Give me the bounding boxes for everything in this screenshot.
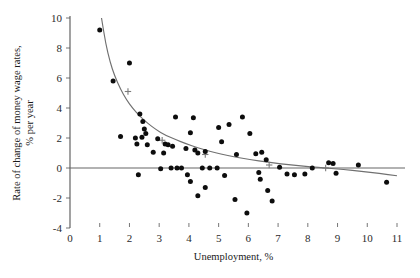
data-point	[302, 172, 307, 177]
data-point	[234, 152, 239, 157]
x-tick-label: 2	[127, 232, 133, 244]
data-point	[166, 142, 171, 147]
x-tick-label: 7	[275, 232, 281, 244]
data-point	[158, 166, 163, 171]
y-tick-label: -2	[53, 192, 62, 204]
data-point	[111, 79, 116, 84]
x-tick-label: 6	[246, 232, 252, 244]
y-tick-label: 4	[57, 102, 63, 114]
data-point	[195, 151, 200, 156]
chart-figure: 01234567891011 -4-20246810 Unemployment,…	[0, 0, 420, 278]
data-point	[191, 115, 196, 120]
data-point	[133, 136, 138, 141]
data-point	[118, 134, 123, 139]
curve-cross-markers	[125, 88, 329, 171]
data-point	[169, 166, 174, 171]
data-point	[285, 172, 290, 177]
data-point	[270, 199, 275, 204]
y-axis-title-line1: Rate of change of money wage rates,	[11, 45, 22, 200]
data-point	[188, 130, 193, 135]
data-point	[140, 119, 145, 124]
data-point	[356, 163, 361, 168]
x-tick-label: 3	[156, 232, 162, 244]
data-point	[216, 125, 221, 130]
data-point	[240, 115, 245, 120]
x-axis-ticks: 01234567891011	[67, 223, 402, 244]
data-point	[215, 166, 220, 171]
data-point	[137, 112, 142, 117]
data-point	[175, 166, 180, 171]
data-point	[155, 136, 160, 141]
data-point	[334, 171, 339, 176]
data-point	[222, 173, 227, 178]
data-point	[97, 28, 102, 33]
data-point	[264, 157, 269, 162]
y-axis-title-line2: % per year	[24, 100, 35, 146]
data-point	[200, 166, 205, 171]
data-point	[151, 150, 156, 155]
data-point	[203, 185, 208, 190]
x-tick-label: 5	[216, 232, 222, 244]
data-point	[258, 177, 263, 182]
data-point	[232, 197, 237, 202]
data-point	[256, 170, 261, 175]
x-tick-label: 1	[97, 232, 103, 244]
x-axis-title: Unemployment, %	[194, 251, 274, 262]
data-point	[188, 179, 193, 184]
x-tick-label: 8	[305, 232, 311, 244]
x-tick-label: 11	[392, 232, 403, 244]
data-point	[134, 142, 139, 147]
data-point	[331, 161, 336, 166]
data-point	[185, 172, 190, 177]
fitted-curve	[102, 18, 397, 176]
data-point	[259, 150, 264, 155]
data-point	[326, 160, 331, 165]
data-points	[97, 28, 389, 216]
x-tick-label: 4	[186, 232, 192, 244]
y-tick-label: 0	[57, 162, 63, 174]
y-tick-label: -4	[53, 222, 63, 234]
y-tick-label: 2	[57, 132, 63, 144]
data-point	[207, 166, 212, 171]
data-point	[127, 61, 132, 66]
data-point	[292, 172, 297, 177]
data-point	[253, 151, 258, 156]
data-point	[203, 149, 208, 154]
data-point	[139, 135, 144, 140]
data-point	[142, 127, 147, 132]
data-point	[227, 122, 232, 127]
data-point	[145, 142, 150, 147]
data-point	[219, 139, 224, 144]
y-axis-ticks: -4-20246810	[51, 12, 70, 234]
data-point	[195, 193, 200, 198]
data-point	[143, 131, 148, 136]
data-point	[179, 166, 184, 171]
x-tick-label: 9	[335, 232, 341, 244]
x-tick-label: 10	[362, 232, 374, 244]
data-point	[183, 146, 188, 151]
y-tick-label: 10	[51, 12, 63, 24]
data-point	[277, 165, 282, 170]
data-point	[247, 131, 252, 136]
data-point	[173, 115, 178, 120]
data-point	[310, 166, 315, 171]
data-point	[244, 211, 249, 216]
scatter-plot-svg: 01234567891011 -4-20246810 Unemployment,…	[0, 0, 420, 278]
y-tick-label: 8	[57, 42, 63, 54]
data-point	[384, 180, 389, 185]
data-point	[136, 172, 141, 177]
data-point	[161, 151, 166, 156]
data-point	[170, 144, 175, 149]
data-point	[265, 188, 270, 193]
y-tick-label: 6	[57, 72, 63, 84]
x-tick-label: 0	[67, 232, 73, 244]
